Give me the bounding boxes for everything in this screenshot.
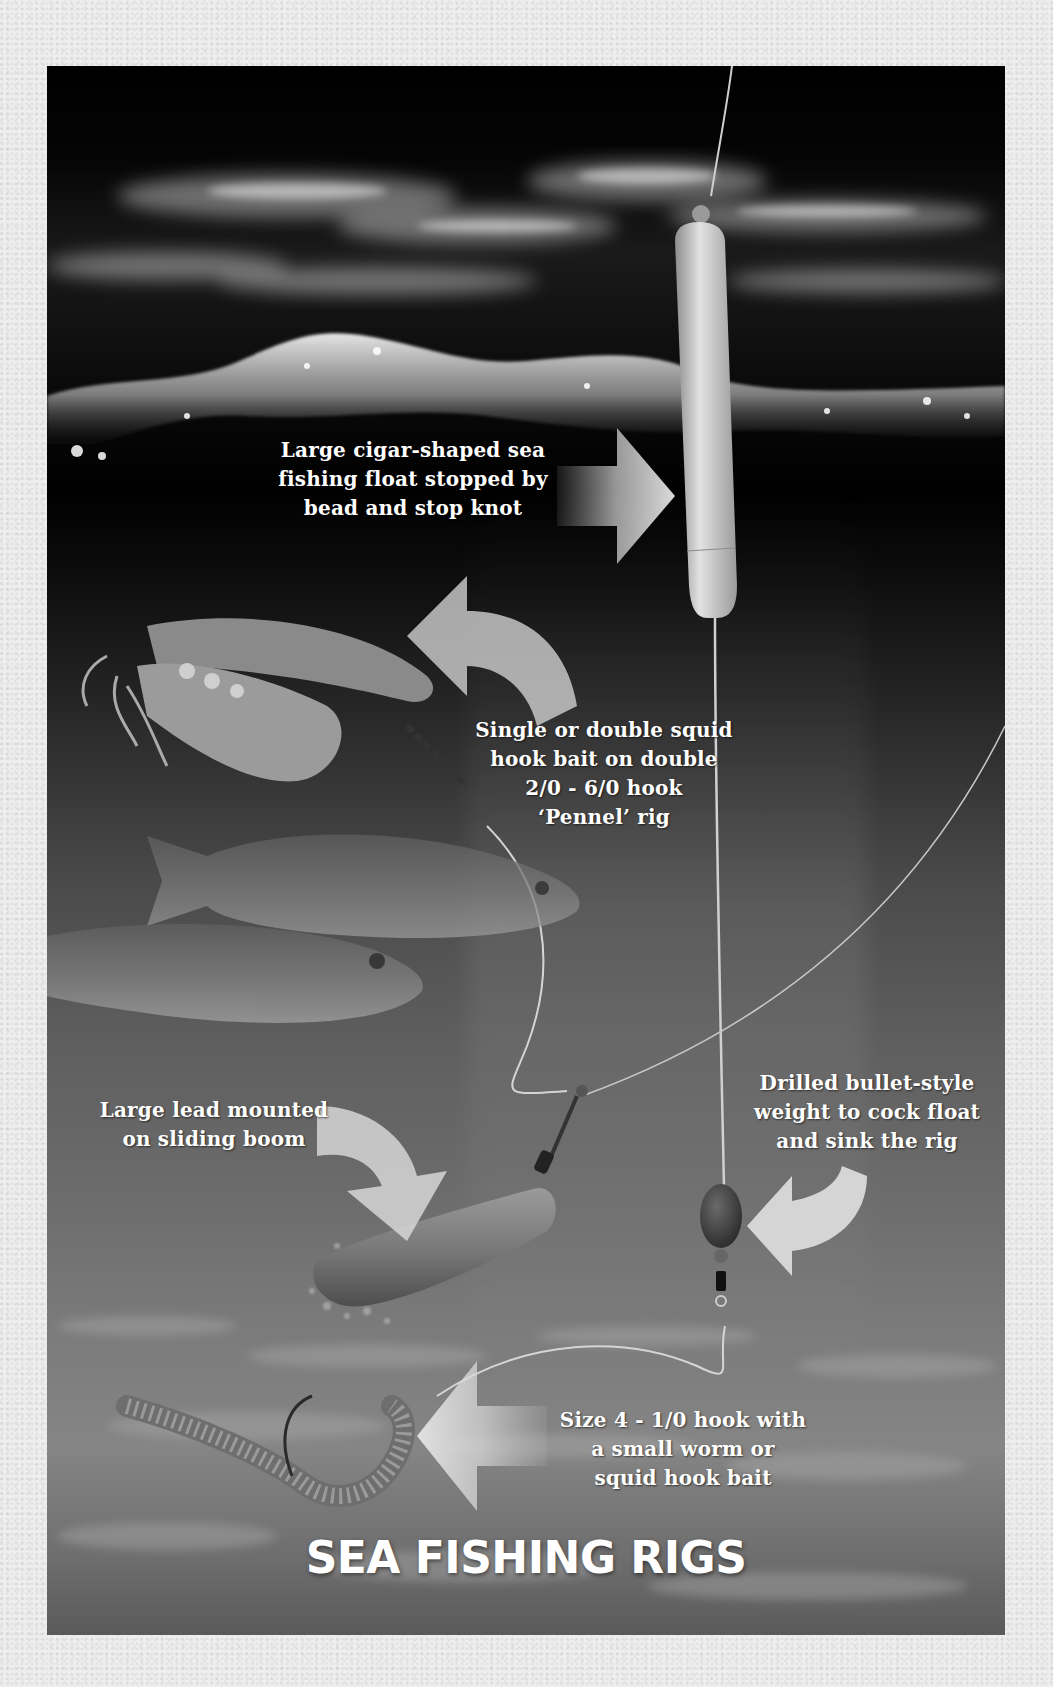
page-title: SEA FISHING RIGS — [47, 1532, 1005, 1583]
rig-illustration — [47, 66, 1005, 1635]
main-line — [711, 66, 732, 196]
squid-icon — [83, 618, 467, 786]
label-float: Large cigar-shaped sea fishing float sto… — [243, 436, 583, 523]
infographic-panel: Large cigar-shaped sea fishing float sto… — [47, 66, 1005, 1635]
hook-trace — [437, 1326, 725, 1396]
swivel-icon — [533, 1085, 588, 1175]
fish-icon — [47, 924, 423, 1023]
fish-icon — [147, 835, 580, 938]
arrow-curved-left-icon — [407, 576, 577, 726]
worm-icon — [127, 1396, 404, 1496]
label-hook: Size 4 - 1/0 hook with a small worm or s… — [533, 1406, 833, 1493]
arrow-curved-left-icon — [747, 1166, 867, 1276]
main-line-lower — [715, 618, 725, 1231]
arrow-left-icon — [417, 1361, 547, 1511]
label-bullet-weight: Drilled bullet-style weight to cock floa… — [737, 1069, 997, 1156]
label-lead: Large lead mounted on sliding boom — [69, 1096, 359, 1154]
lead-weight-icon — [309, 1188, 556, 1324]
label-squid-bait: Single or double squid hook bait on doub… — [439, 716, 769, 832]
cigar-float-icon — [675, 205, 737, 618]
bullet-weight-icon — [700, 1184, 742, 1306]
